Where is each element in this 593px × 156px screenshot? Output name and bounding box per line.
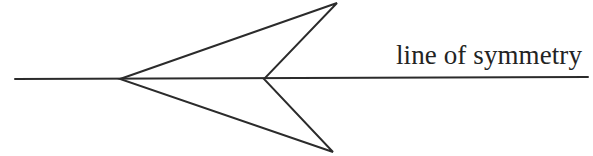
line-of-symmetry-label: line of symmetry xyxy=(396,40,582,70)
diagram-svg xyxy=(0,0,593,156)
figure-canvas: line of symmetry xyxy=(0,0,593,156)
line-of-symmetry-axis xyxy=(15,77,588,79)
